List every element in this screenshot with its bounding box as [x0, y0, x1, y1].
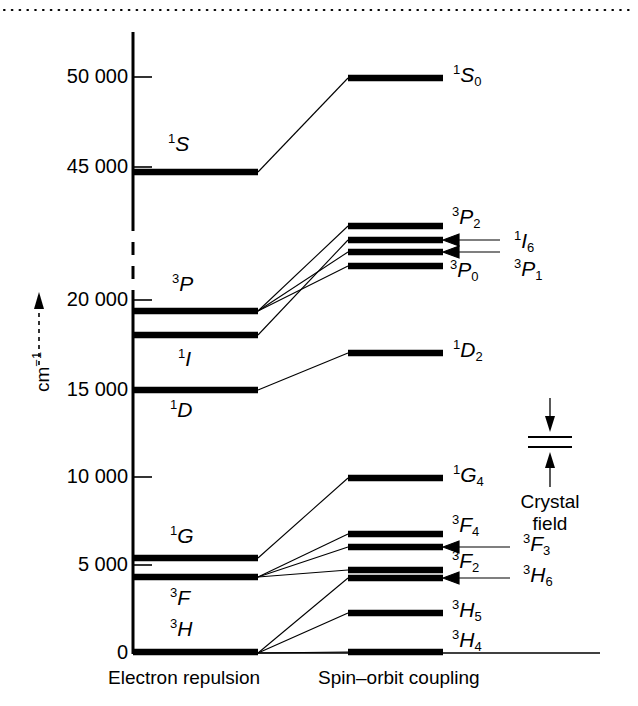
term-label-right-3P0: 3P0: [450, 258, 478, 283]
term-label-right-3P1: 3P1: [514, 257, 542, 282]
term-label-left-1S: 1S: [168, 132, 189, 154]
term-subscript: 2: [473, 216, 480, 231]
term-core: D: [177, 398, 192, 421]
term-core: F: [177, 586, 190, 609]
term-subscript: 3: [543, 543, 550, 558]
term-label-right-1I6: 1I6: [514, 229, 534, 254]
energy-level-diagram: cm−1 50 000 45 000 20 000 15 000 10 000 …: [0, 0, 638, 706]
crystal-field-line2: field: [533, 513, 568, 534]
correlation-line-3P-3P1: [258, 252, 348, 311]
correlation-line-3F-3F3: [258, 547, 348, 577]
correlation-line-3P-3P0: [258, 266, 348, 311]
term-subscript: 6: [527, 240, 534, 255]
term-core: H: [177, 617, 192, 640]
term-subscript: 1: [535, 268, 542, 283]
correlation-line-1D-1D2: [258, 353, 348, 390]
term-label-left-3F: 3F: [170, 586, 190, 608]
term-core: H: [530, 563, 545, 586]
caption-crystal-field: Crystalfield: [505, 491, 595, 536]
term-label-left-3P: 3P: [172, 272, 193, 294]
term-subscript: 2: [472, 560, 479, 575]
term-core: F: [459, 513, 472, 536]
term-core: D: [460, 338, 475, 361]
term-core: H: [459, 598, 474, 621]
correlation-line-3H-3H6: [258, 578, 348, 653]
callout-head-1I6: [443, 234, 459, 246]
right-levels-group: [348, 78, 443, 652]
y-tick-label-15000: 15 000: [32, 379, 128, 399]
term-subscript: 4: [477, 474, 484, 489]
diagram-canvas: [0, 0, 638, 706]
correlation-line-1G-1G4: [258, 478, 348, 558]
term-label-right-3F2: 3F2: [452, 549, 479, 574]
term-core: P: [521, 257, 535, 280]
left-levels-group: [133, 172, 258, 652]
term-label-right-3H4: 3H4: [452, 628, 482, 653]
correlation-line-1S-1S0: [258, 78, 348, 172]
correlation-lines-group: [258, 78, 348, 653]
term-subscript: 0: [471, 269, 478, 284]
term-subscript: 4: [474, 639, 481, 654]
term-core: P: [179, 272, 193, 295]
term-label-right-3P2: 3P2: [452, 205, 480, 230]
caption-spin-orbit-coupling: Spin–orbit coupling: [318, 668, 480, 687]
correlation-line-1I-1I6: [258, 240, 348, 335]
y-tick-label-45000: 45 000: [32, 156, 128, 176]
y-tick-label-5000: 5 000: [32, 554, 128, 574]
crystal-field-line1: Crystal: [520, 491, 579, 512]
term-subscript: 6: [545, 574, 552, 589]
term-label-left-1I: 1I: [178, 347, 191, 369]
term-core: I: [185, 347, 191, 370]
y-axis-unit-exponent: −1: [29, 352, 44, 367]
term-label-right-3F4: 3F4: [452, 513, 479, 538]
term-subscript: 2: [475, 349, 482, 364]
term-subscript: 4: [472, 524, 479, 539]
y-tick-label-0: 0: [32, 642, 128, 662]
crystal-field-upper-arrowhead: [545, 416, 555, 432]
caption-electron-repulsion: Electron repulsion: [108, 668, 260, 687]
term-core: G: [460, 463, 476, 486]
crystal-field-indicator: [528, 398, 572, 487]
term-core: G: [177, 524, 193, 547]
correlation-line-3P-3P2: [258, 226, 348, 311]
y-tick-label-20000: 20 000: [32, 289, 128, 309]
y-tick-label-50000: 50 000: [32, 66, 128, 86]
term-label-right-3H6: 3H6: [523, 563, 553, 588]
term-core: P: [459, 205, 473, 228]
term-label-right-1D2: 1D2: [453, 338, 483, 363]
y-tick-label-10000: 10 000: [32, 466, 128, 486]
term-label-right-3H5: 3H5: [452, 598, 482, 623]
term-subscript: 5: [474, 609, 481, 624]
term-label-left-3H: 3H: [170, 617, 192, 639]
term-core: P: [457, 258, 471, 281]
correlation-line-3H-3H5: [258, 613, 348, 653]
term-core: H: [459, 628, 474, 651]
term-label-left-1D: 1D: [170, 398, 192, 420]
term-core: S: [460, 63, 474, 86]
term-label-right-1S0: 1S0: [453, 63, 481, 88]
term-label-right-1G4: 1G4: [453, 463, 484, 488]
term-core: S: [175, 132, 189, 155]
term-core: F: [459, 549, 472, 572]
term-label-left-1G: 1G: [170, 524, 194, 546]
term-subscript: 0: [474, 74, 481, 89]
